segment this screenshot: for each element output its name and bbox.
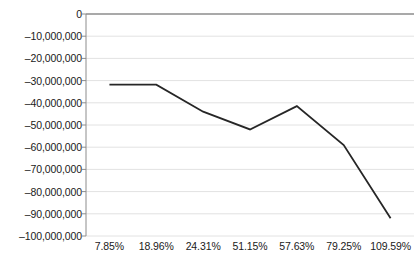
- y-axis-tick-label: –30,000,000: [25, 75, 82, 86]
- y-axis-tick-label: –50,000,000: [25, 120, 82, 131]
- x-axis-tick-label: 24.31%: [186, 241, 221, 252]
- y-axis-tick-label: –20,000,000: [25, 53, 82, 64]
- y-axis-tick-label: –100,000,000: [19, 231, 82, 242]
- x-axis-tick-label: 18.96%: [139, 241, 174, 252]
- y-axis-tick-label: –60,000,000: [25, 142, 82, 153]
- gridlines: [86, 14, 414, 236]
- data-series-line: [109, 85, 390, 219]
- x-axis-tick-label: 57.63%: [279, 241, 314, 252]
- x-axis-tick-label: 79.25%: [326, 241, 361, 252]
- line-chart: 0–10,000,000–20,000,000–30,000,000–40,00…: [0, 0, 419, 262]
- y-axis-tick-label: –40,000,000: [25, 98, 82, 109]
- y-axis-tick-label: 0: [76, 9, 82, 20]
- x-axis-tick-label: 109.59%: [370, 241, 411, 252]
- x-axis-tick-label: 51.15%: [232, 241, 267, 252]
- x-axis-tick-label: 7.85%: [95, 241, 124, 252]
- y-axis-tick-label: –80,000,000: [25, 186, 82, 197]
- y-axis-tick-label: –90,000,000: [25, 209, 82, 220]
- y-axis-tick-label: –10,000,000: [25, 31, 82, 42]
- y-axis-tick-label: –70,000,000: [25, 164, 82, 175]
- y-axis-ticks: [82, 14, 86, 236]
